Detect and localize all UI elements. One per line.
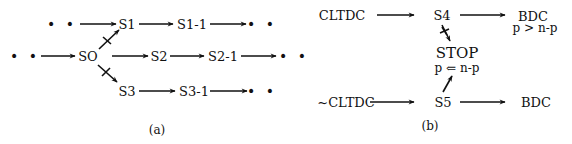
condition-p-implied-by-n-minus-p: p ⇐ n-p (435, 62, 480, 74)
caption-a: (a) (149, 124, 166, 136)
node-s4: S4 (433, 9, 450, 22)
node-s3: S3 (118, 85, 135, 98)
crossed-arrow-so-to-s1 (99, 30, 119, 49)
ellipsis-dots: • • (10, 49, 40, 63)
ellipsis-dots: • • (47, 17, 77, 31)
node-not-cltdc: ~CLTDC (317, 96, 374, 109)
condition-p-gt-n-minus-p: p > n-p (513, 22, 558, 34)
node-s1-1: S1-1 (177, 18, 207, 31)
node-cltdc: CLTDC (319, 9, 366, 22)
arrow-s5-to-stop (443, 76, 452, 92)
node-stop: STOP (436, 46, 479, 61)
node-s5: S5 (434, 96, 451, 109)
ellipsis-dots: • • (279, 49, 309, 63)
node-so: SO (78, 50, 98, 63)
crossed-arrow-so-to-s3 (98, 65, 117, 82)
node-s2: S2 (150, 50, 167, 63)
caption-b: (b) (421, 120, 438, 132)
ellipsis-dots: • • (247, 17, 277, 31)
node-bdc-bottom: BDC (521, 96, 551, 109)
node-s1: S1 (118, 18, 135, 31)
diagram-canvas: • • S1 S1-1 • • • • SO S2 S2-1 • • S3 S3… (0, 0, 572, 144)
node-s2-1: S2-1 (208, 50, 238, 63)
edges-layer (0, 0, 572, 144)
node-s3-1: S3-1 (179, 85, 209, 98)
ellipsis-dots: • • (247, 84, 277, 98)
